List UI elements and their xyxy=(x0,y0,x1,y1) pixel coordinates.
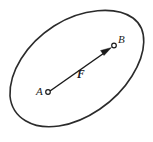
force-vector-label: F xyxy=(77,69,85,81)
point-b-marker-icon xyxy=(112,43,117,48)
point-a-label: A xyxy=(36,86,43,97)
point-a-marker-icon xyxy=(46,90,51,95)
figure-container: A B F xyxy=(0,0,153,142)
point-b-label: B xyxy=(118,34,125,45)
